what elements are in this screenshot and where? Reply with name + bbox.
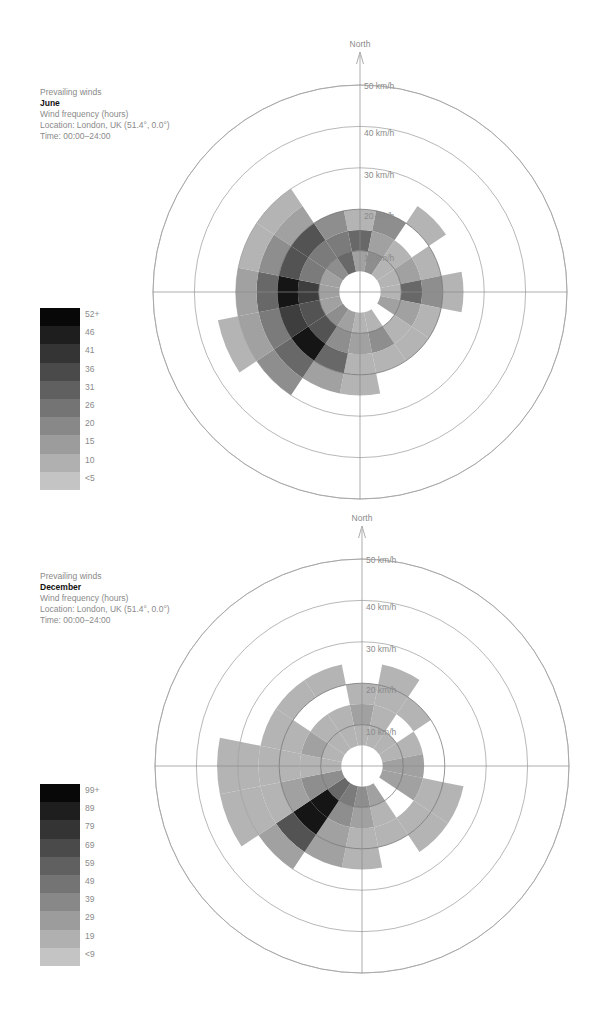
ring-label: 40 km/h bbox=[364, 128, 395, 138]
ring-label: 20 km/h bbox=[366, 685, 397, 695]
ring-label: 30 km/h bbox=[364, 170, 395, 180]
december-panel: Prevailing winds December Wind frequency… bbox=[0, 506, 606, 1013]
ring-label: 20 km/h bbox=[364, 211, 395, 221]
wind-sector-ne bbox=[406, 206, 446, 246]
wind-rose-chart: 10 km/h20 km/h30 km/h40 km/h50 km/hNorth bbox=[0, 506, 606, 1013]
ring-label: 30 km/h bbox=[366, 644, 397, 654]
ring-label: 10 km/h bbox=[364, 253, 395, 263]
june-panel: Prevailing winds June Wind frequency (ho… bbox=[0, 0, 606, 506]
ring-label: 10 km/h bbox=[366, 727, 397, 737]
wind-sectors bbox=[217, 664, 463, 869]
north-label: North bbox=[350, 39, 371, 49]
wind-rose-chart: 10 km/h20 km/h30 km/h40 km/h50 km/hNorth bbox=[0, 0, 606, 506]
north-label: North bbox=[352, 513, 373, 523]
ring-label: 40 km/h bbox=[366, 602, 397, 612]
